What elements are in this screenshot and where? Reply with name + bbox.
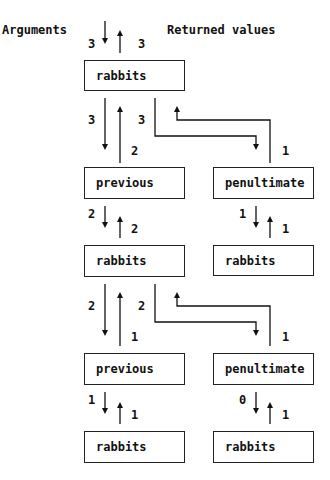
box-penultimate-2: penultimate — [213, 353, 314, 385]
value-label: 2 — [88, 299, 95, 313]
box-rabbits-r1: rabbits — [213, 245, 314, 276]
value-label: 0 — [239, 393, 246, 407]
value-label: 1 — [239, 207, 246, 221]
value-label: 3 — [88, 113, 95, 127]
value-label: 3 — [138, 113, 145, 127]
box-rabbits-r2: rabbits — [213, 431, 314, 463]
box-penultimate-1: penultimate — [213, 167, 314, 199]
box-rabbits-2: rabbits — [84, 245, 185, 277]
value-label: 1 — [282, 144, 289, 158]
value-label: 1 — [282, 408, 289, 422]
box-previous-2: previous — [84, 353, 185, 385]
value-label: 1 — [131, 408, 138, 422]
value-label: 1 — [88, 393, 95, 407]
box-rabbits-3: rabbits — [84, 431, 185, 463]
value-label: 2 — [131, 144, 138, 158]
value-label: 2 — [138, 299, 145, 313]
value-label: 3 — [88, 37, 95, 51]
value-label: 1 — [131, 330, 138, 344]
value-label: 2 — [131, 222, 138, 236]
value-label: 3 — [138, 37, 145, 51]
box-rabbits-top: rabbits — [84, 60, 185, 91]
value-label: 2 — [88, 207, 95, 221]
box-previous-1: previous — [84, 167, 185, 199]
value-label: 1 — [282, 222, 289, 236]
value-label: 1 — [282, 330, 289, 344]
